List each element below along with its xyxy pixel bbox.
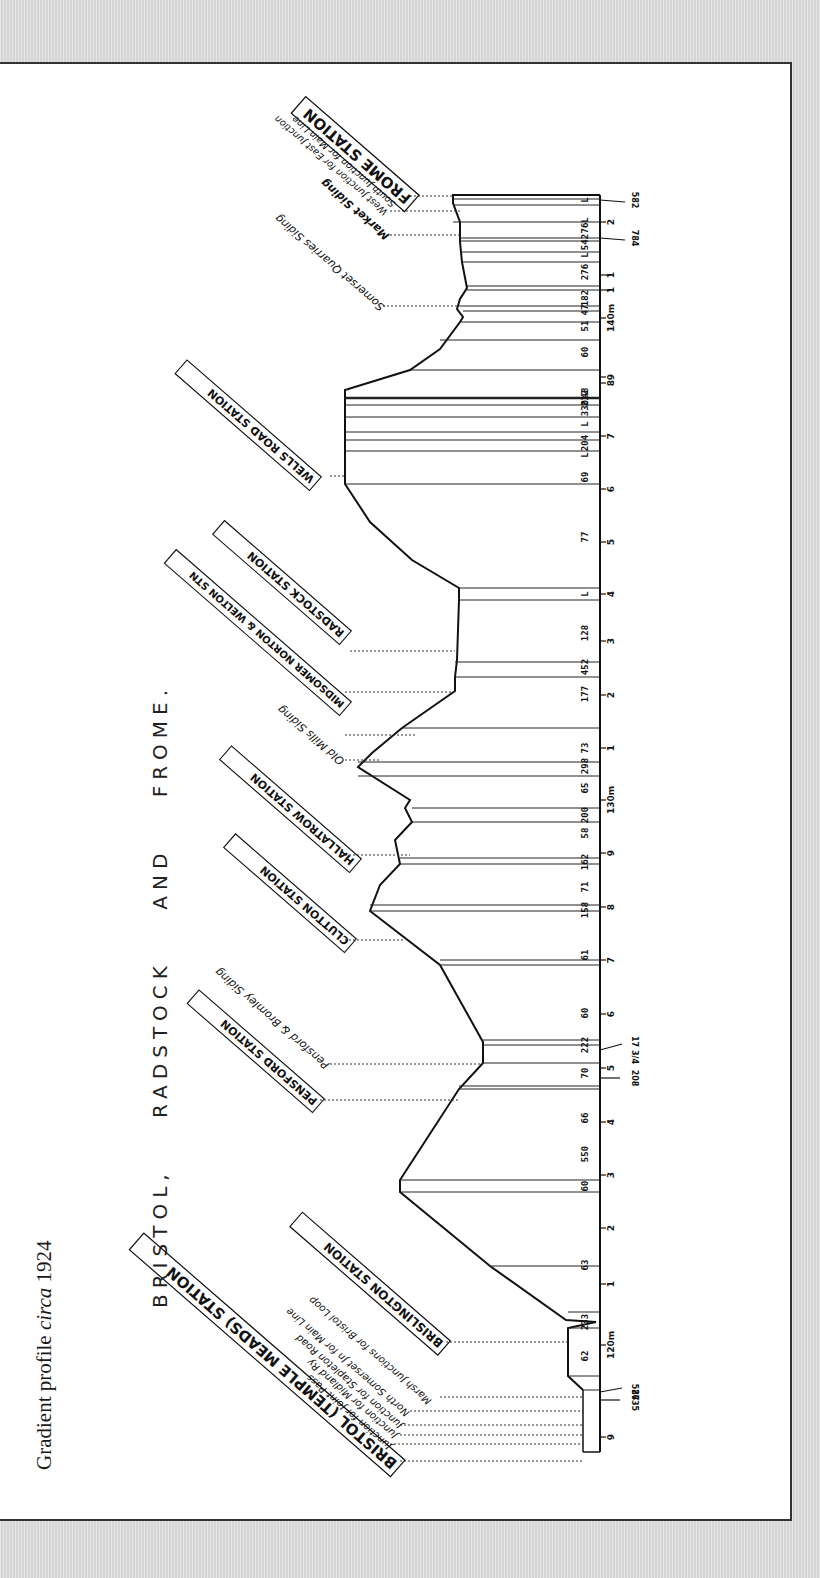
chainage-label: 784 <box>630 230 639 247</box>
milepost-label: 130m <box>606 786 616 814</box>
gradient-value: 177 <box>580 686 590 702</box>
chainage-label: 2635 <box>630 1389 639 1412</box>
gradient-value: 76 <box>580 223 590 234</box>
milepost-label: 4 <box>606 1119 616 1125</box>
milepost-label: 4 <box>606 591 616 597</box>
gradient-value: 51 <box>580 321 590 332</box>
milepost-label: 9 <box>606 1434 616 1440</box>
gradient-value: 69 <box>580 472 590 483</box>
milepost-label: 1 <box>606 745 616 751</box>
chainage-labels: 587263520817 3/4784582 <box>630 192 639 1412</box>
gradient-value: 61 <box>580 950 590 961</box>
station-label-wells-road: WELLS ROAD STATION <box>175 360 321 490</box>
milepost-label: 1 <box>606 272 616 278</box>
siding-labels: Pensford & Bromley Siding Old Mills Sidi… <box>212 114 397 1072</box>
milepost-labels: 9120m123456789130m123456789140m112 <box>606 219 616 1440</box>
gradient-value: 60 <box>580 1181 590 1192</box>
gradient-value: 162 <box>580 854 590 870</box>
gradient-value: L <box>580 421 590 427</box>
milepost-label: 6 <box>606 486 616 492</box>
gradient-value: 276 <box>580 264 590 280</box>
svg-text:PENSFORD STATION: PENSFORD STATION <box>218 1017 320 1108</box>
milepost-label: 8 <box>606 904 616 910</box>
milepost-label: 2 <box>606 219 616 225</box>
gradient-value: 158 <box>580 902 590 918</box>
milepost-label: 120m <box>606 1331 616 1359</box>
milepost-label: 140m <box>606 304 616 332</box>
gradient-value: 62 <box>580 1351 590 1362</box>
milepost-label: 7 <box>606 433 616 439</box>
gradient-value: 204 <box>580 434 590 451</box>
svg-text:WELLS ROAD STATION: WELLS ROAD STATION <box>205 386 317 486</box>
milepost-label: 9 <box>606 850 616 856</box>
gradient-value: 60 <box>580 347 590 358</box>
svg-text:MIDSOMER NORTON & WELTON STN: MIDSOMER NORTON & WELTON STN <box>187 569 346 709</box>
milepost-label: 1 <box>606 287 616 293</box>
milepost-label: 6 <box>606 1011 616 1017</box>
milepost-label: 7 <box>606 957 616 963</box>
gradient-value: 77 <box>580 532 590 543</box>
chainage-label: 17 3/4 <box>630 1036 639 1064</box>
milepost-label: 5 <box>606 539 616 545</box>
gradient-value: L <box>580 197 590 203</box>
gradient-value: 48 <box>580 388 590 399</box>
gradient-value: 550 <box>580 1146 590 1162</box>
gradient-value: 71 <box>580 882 590 893</box>
station-label-midsomer-norton: MIDSOMER NORTON & WELTON STN <box>164 550 351 716</box>
gradient-value: 233 <box>580 1314 590 1330</box>
gradient-value: 298 <box>580 758 590 774</box>
svg-text:BRISTOL (TEMPLE MEADS) STATION: BRISTOL (TEMPLE MEADS) STATION <box>163 1263 400 1473</box>
gradient-value: 452 <box>580 659 590 675</box>
gradient-value: L <box>580 452 590 458</box>
gradient-value: 73 <box>580 743 590 754</box>
milepost-label: 3 <box>606 638 616 644</box>
gradient-profile-diagram: BRISTOL (TEMPLE MEADS) STATION BRISLINGT… <box>0 0 820 1578</box>
station-label-radstock: RADSTOCK STATION <box>213 521 352 645</box>
gradient-value: 182 <box>580 290 590 306</box>
gradient-value: 66 <box>580 1113 590 1124</box>
svg-text:BRISLINGTON STATION: BRISLINGTON STATION <box>321 1239 446 1350</box>
chainage-label: 582 <box>630 192 639 209</box>
gradient-value: 63 <box>580 1260 590 1271</box>
milepost-label: 1 <box>606 1281 616 1287</box>
gradient-value: 60 <box>580 1008 590 1019</box>
elevation-profile-line <box>345 195 600 1390</box>
gradient-value: L <box>580 252 590 258</box>
milepost-label: 2 <box>606 692 616 698</box>
gradient-value: 222 <box>580 1037 590 1053</box>
svg-text:RADSTOCK STATION: RADSTOCK STATION <box>245 549 347 640</box>
gradient-value: 128 <box>580 625 590 641</box>
gradient-value: 65 <box>580 783 590 794</box>
milepost-label: 3 <box>606 1172 616 1178</box>
gradient-value: 200 <box>580 807 590 823</box>
milepost-label: 2 <box>606 1225 616 1231</box>
milepost-label: 5 <box>606 1065 616 1071</box>
svg-text:HALLATROW STATION: HALLATROW STATION <box>248 770 357 867</box>
gradient-value: 58 <box>580 828 590 839</box>
gradient-values: 6223363605506670222606115871162582006529… <box>580 197 590 1362</box>
chainage-label: 208 <box>630 1070 639 1087</box>
gradient-value: L <box>580 217 590 223</box>
svg-text:CLUTTON STATION: CLUTTON STATION <box>258 863 352 947</box>
gradient-value: 542 <box>580 234 590 250</box>
gradient-value: L <box>580 591 590 597</box>
siding-label: Pensford & Bromley Siding <box>212 965 332 1071</box>
gradient-value: 70 <box>580 1068 590 1079</box>
milepost-label: 9 <box>606 374 616 380</box>
